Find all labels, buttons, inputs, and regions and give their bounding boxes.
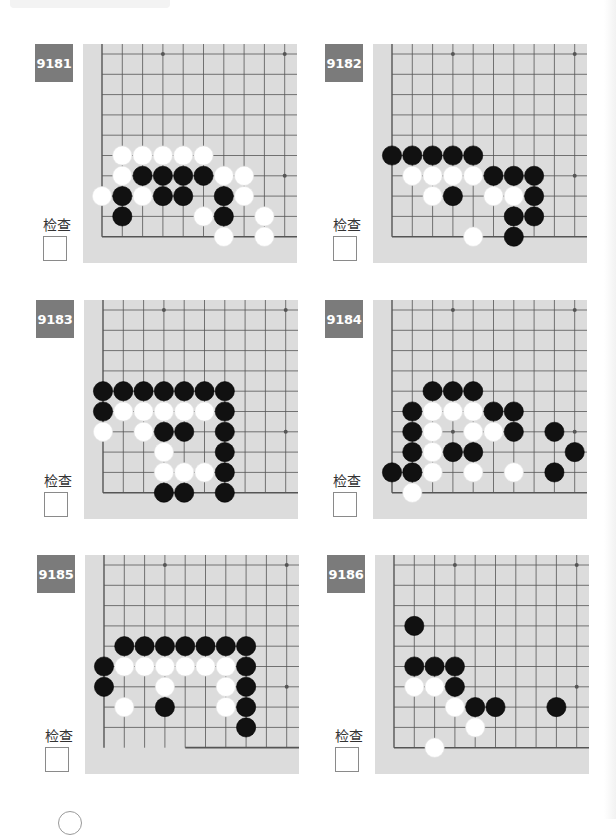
black-stone-icon[interactable] [525, 166, 544, 185]
black-stone-icon[interactable] [237, 657, 256, 676]
black-stone-icon[interactable] [403, 463, 422, 482]
white-stone-icon[interactable] [504, 187, 523, 206]
white-stone-icon[interactable] [134, 422, 153, 441]
white-stone-icon[interactable] [153, 146, 172, 165]
white-stone-icon[interactable] [425, 677, 444, 696]
white-stone-icon[interactable] [175, 463, 194, 482]
white-stone-icon[interactable] [443, 166, 462, 185]
black-stone-icon[interactable] [425, 657, 444, 676]
black-stone-icon[interactable] [237, 698, 256, 717]
white-stone-icon[interactable] [113, 166, 132, 185]
black-stone-icon[interactable] [504, 422, 523, 441]
white-stone-icon[interactable] [174, 146, 193, 165]
white-stone-icon[interactable] [114, 402, 133, 421]
black-stone-icon[interactable] [464, 382, 483, 401]
go-board[interactable] [83, 44, 297, 263]
white-stone-icon[interactable] [115, 657, 134, 676]
black-stone-icon[interactable] [504, 402, 523, 421]
white-stone-icon[interactable] [423, 166, 442, 185]
black-stone-icon[interactable] [153, 187, 172, 206]
black-stone-icon[interactable] [175, 422, 194, 441]
black-stone-icon[interactable] [443, 443, 462, 462]
white-stone-icon[interactable] [115, 698, 134, 717]
black-stone-icon[interactable] [113, 187, 132, 206]
black-stone-icon[interactable] [525, 207, 544, 226]
white-stone-icon[interactable] [423, 187, 442, 206]
black-stone-icon[interactable] [214, 207, 233, 226]
white-stone-icon[interactable] [216, 657, 235, 676]
white-stone-icon[interactable] [255, 227, 274, 246]
white-stone-icon[interactable] [423, 463, 442, 482]
white-stone-icon[interactable] [194, 207, 213, 226]
white-stone-icon[interactable] [464, 463, 483, 482]
black-stone-icon[interactable] [215, 443, 234, 462]
white-stone-icon[interactable] [405, 677, 424, 696]
black-stone-icon[interactable] [423, 382, 442, 401]
black-stone-icon[interactable] [214, 187, 233, 206]
white-stone-icon[interactable] [155, 677, 174, 696]
black-stone-icon[interactable] [486, 698, 505, 717]
check-checkbox[interactable] [333, 236, 357, 261]
black-stone-icon[interactable] [175, 382, 194, 401]
black-stone-icon[interactable] [464, 443, 483, 462]
black-stone-icon[interactable] [382, 463, 401, 482]
black-stone-icon[interactable] [565, 443, 584, 462]
white-stone-icon[interactable] [504, 463, 523, 482]
black-stone-icon[interactable] [547, 698, 566, 717]
black-stone-icon[interactable] [94, 677, 113, 696]
black-stone-icon[interactable] [133, 166, 152, 185]
white-stone-icon[interactable] [484, 187, 503, 206]
white-stone-icon[interactable] [154, 463, 173, 482]
black-stone-icon[interactable] [525, 187, 544, 206]
black-stone-icon[interactable] [403, 443, 422, 462]
white-stone-icon[interactable] [214, 166, 233, 185]
black-stone-icon[interactable] [237, 718, 256, 737]
black-stone-icon[interactable] [484, 402, 503, 421]
black-stone-icon[interactable] [237, 677, 256, 696]
white-stone-icon[interactable] [134, 402, 153, 421]
black-stone-icon[interactable] [445, 657, 464, 676]
white-stone-icon[interactable] [216, 698, 235, 717]
black-stone-icon[interactable] [443, 382, 462, 401]
black-stone-icon[interactable] [504, 227, 523, 246]
black-stone-icon[interactable] [405, 616, 424, 635]
black-stone-icon[interactable] [195, 382, 214, 401]
black-stone-icon[interactable] [196, 637, 215, 656]
go-board[interactable] [373, 300, 587, 519]
black-stone-icon[interactable] [215, 463, 234, 482]
black-stone-icon[interactable] [545, 422, 564, 441]
white-stone-icon[interactable] [403, 166, 422, 185]
black-stone-icon[interactable] [154, 483, 173, 502]
white-stone-icon[interactable] [403, 483, 422, 502]
black-stone-icon[interactable] [504, 207, 523, 226]
black-stone-icon[interactable] [466, 698, 485, 717]
black-stone-icon[interactable] [153, 166, 172, 185]
black-stone-icon[interactable] [215, 422, 234, 441]
go-board[interactable] [84, 300, 298, 519]
black-stone-icon[interactable] [403, 402, 422, 421]
black-stone-icon[interactable] [445, 677, 464, 696]
black-stone-icon[interactable] [443, 187, 462, 206]
black-stone-icon[interactable] [114, 382, 133, 401]
black-stone-icon[interactable] [93, 402, 112, 421]
black-stone-icon[interactable] [237, 637, 256, 656]
white-stone-icon[interactable] [484, 422, 503, 441]
black-stone-icon[interactable] [94, 657, 113, 676]
check-checkbox[interactable] [45, 747, 69, 772]
go-board[interactable] [375, 555, 589, 774]
white-stone-icon[interactable] [423, 443, 442, 462]
white-stone-icon[interactable] [155, 657, 174, 676]
white-stone-icon[interactable] [113, 146, 132, 165]
white-stone-icon[interactable] [445, 698, 464, 717]
black-stone-icon[interactable] [403, 422, 422, 441]
white-stone-icon[interactable] [423, 422, 442, 441]
white-stone-icon[interactable] [133, 146, 152, 165]
white-stone-icon[interactable] [175, 402, 194, 421]
white-stone-icon[interactable] [235, 166, 254, 185]
white-stone-icon[interactable] [464, 227, 483, 246]
white-stone-icon[interactable] [176, 657, 195, 676]
black-stone-icon[interactable] [155, 637, 174, 656]
black-stone-icon[interactable] [115, 637, 134, 656]
black-stone-icon[interactable] [443, 146, 462, 165]
black-stone-icon[interactable] [174, 166, 193, 185]
